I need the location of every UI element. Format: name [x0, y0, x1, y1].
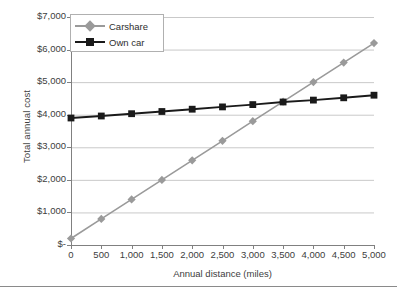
data-point-marker	[97, 215, 105, 223]
chart-figure: Total annual cost Annual distance (miles…	[0, 0, 397, 293]
legend-item-carshare: Carshare	[71, 18, 163, 34]
y-tick-label: $2,000	[22, 173, 66, 184]
data-point-marker	[280, 99, 287, 106]
y-tick-label: $3,000	[22, 140, 66, 151]
x-tick-label: 1,000	[120, 249, 144, 260]
y-tick-label: $6,000	[22, 43, 66, 54]
y-tick-label: $4,000	[22, 108, 66, 119]
x-tick-label: 4,500	[332, 249, 356, 260]
data-point-marker	[128, 110, 135, 117]
data-point-marker	[340, 59, 348, 67]
legend-swatch-own-car	[75, 36, 105, 48]
data-point-marker	[189, 106, 196, 113]
legend-label-carshare: Carshare	[105, 21, 148, 32]
x-tick-label: 500	[93, 249, 109, 260]
y-tick-label: $1,000	[22, 205, 66, 216]
x-tick-label: 2,000	[180, 249, 204, 260]
x-tick-label: 1,500	[150, 249, 174, 260]
data-point-marker	[98, 113, 105, 120]
data-point-marker	[370, 39, 378, 47]
x-tick-label: 2,500	[211, 249, 235, 260]
data-point-marker	[188, 156, 196, 164]
square-marker-icon	[86, 38, 94, 46]
y-tick-label: $-	[22, 238, 66, 249]
legend-swatch-carshare	[75, 20, 105, 32]
data-point-marker	[158, 176, 166, 184]
data-point-marker	[219, 104, 226, 111]
x-tick-label: 4,000	[302, 249, 326, 260]
footer-divider	[0, 286, 397, 287]
data-point-marker	[371, 92, 378, 99]
legend-label-own-car: Own car	[105, 37, 144, 48]
data-point-marker	[309, 78, 317, 86]
x-tick-label: 3,500	[271, 249, 295, 260]
data-point-marker	[68, 115, 75, 122]
data-point-marker	[67, 234, 75, 242]
x-axis-title: Annual distance (miles)	[71, 268, 374, 279]
x-axis-ticks: 05001,0001,5002,0002,5003,0003,5004,0004…	[0, 249, 397, 265]
x-tick-label: 5,000	[362, 249, 386, 260]
data-point-marker	[128, 195, 136, 203]
y-tick-label: $7,000	[22, 10, 66, 21]
data-point-marker	[249, 117, 257, 125]
y-tick-label: $5,000	[22, 75, 66, 86]
chart-legend: Carshare Own car	[70, 14, 164, 52]
diamond-marker-icon	[84, 20, 95, 31]
data-point-marker	[218, 137, 226, 145]
x-tick-label: 0	[68, 249, 73, 260]
legend-item-own-car: Own car	[71, 34, 163, 50]
x-tick-label: 3,000	[241, 249, 265, 260]
data-point-marker	[310, 97, 317, 104]
data-point-marker	[159, 108, 166, 115]
data-point-marker	[249, 101, 256, 108]
data-point-marker	[340, 94, 347, 101]
